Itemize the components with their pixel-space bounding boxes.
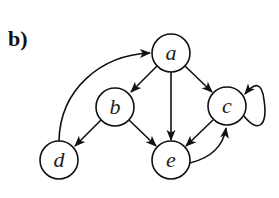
edge-b-d — [75, 120, 101, 146]
node-c: c — [208, 87, 246, 125]
edge-c-e — [186, 120, 213, 146]
node-a-label: a — [166, 40, 177, 65]
edge-a-c — [185, 66, 212, 92]
edge-c-c-selfloop — [244, 86, 265, 126]
node-d: d — [40, 141, 78, 179]
edge-e-c — [190, 128, 226, 163]
node-a: a — [152, 34, 190, 72]
edge-b-e — [129, 120, 156, 146]
node-d-label: d — [54, 147, 66, 172]
directed-graph: a b c d e — [0, 0, 279, 198]
node-b: b — [96, 88, 134, 126]
node-e-label: e — [166, 147, 176, 172]
node-b-label: b — [110, 94, 121, 119]
edge-a-b — [131, 66, 157, 92]
node-e: e — [152, 141, 190, 179]
node-c-label: c — [222, 93, 232, 118]
